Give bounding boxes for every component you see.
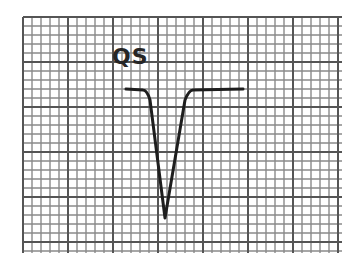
ecg-grid-paper: [0, 0, 363, 271]
ecg-figure: QS: [0, 0, 363, 271]
minor-grid-lines: [23, 17, 342, 253]
qs-label: QS: [112, 44, 149, 69]
